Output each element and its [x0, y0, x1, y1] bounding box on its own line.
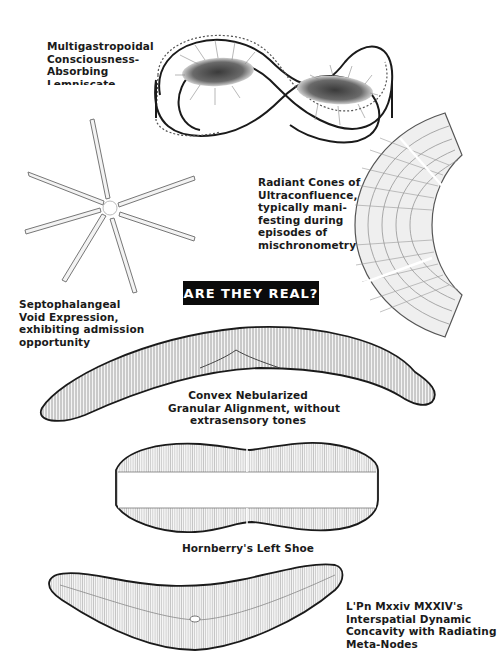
caption-line: episodes of	[258, 226, 360, 239]
caption-line: Ultraconfluence,	[258, 189, 360, 202]
caption-line: Void Expression,	[19, 311, 144, 324]
caption-line: L'Pn Mxxiv MXXIV's	[346, 600, 497, 613]
caption-line: exhibiting admission	[19, 323, 144, 336]
caption-line: festing during	[258, 214, 360, 227]
shoe-shaped-diatom	[116, 443, 378, 532]
caption-star: Septophalangeal Void Expression, exhibit…	[19, 298, 144, 348]
caption-line: opportunity	[19, 336, 144, 349]
caption-line: Concavity with Radiating	[346, 625, 497, 638]
caption-line: Meta-Nodes	[346, 638, 497, 651]
caption-line: mischronometry	[258, 239, 360, 252]
caption-line: Interspatial Dynamic	[346, 613, 497, 626]
caption-line: Radiant Cones of	[258, 176, 360, 189]
fan-segmented-diatom	[355, 113, 462, 337]
caption-line: Lemniscate	[47, 78, 154, 85]
caption-line: extrasensory tones	[168, 414, 328, 427]
caption-line: Convex Nebularized	[168, 389, 328, 402]
caption-line: Multigastropoidal	[47, 40, 154, 53]
caption-line: Hornberry's Left Shoe	[168, 542, 328, 555]
caption-line: Absorbing	[47, 65, 154, 78]
caption-shoe: Hornberry's Left Shoe	[168, 542, 328, 555]
star-radial-diatom	[25, 119, 195, 293]
caption-fan: Radiant Cones of Ultraconfluence, typica…	[258, 176, 360, 251]
caption-infinity: Multigastropoidal Consciousness- Absorbi…	[47, 40, 154, 85]
are-they-real-banner: ARE THEY REAL?	[183, 281, 319, 305]
caption-line: Granular Alignment, without	[168, 402, 328, 415]
caption-line: Septophalangeal	[19, 298, 144, 311]
caption-line: Consciousness-	[47, 53, 154, 66]
caption-boomerang: L'Pn Mxxiv MXXIV's Interspatial Dynamic …	[346, 600, 497, 650]
caption-crescent: Convex Nebularized Granular Alignment, w…	[168, 389, 328, 427]
infinity-loop-diatom	[155, 35, 392, 142]
boomerang-diatom	[49, 564, 343, 650]
caption-line: typically mani-	[258, 201, 360, 214]
